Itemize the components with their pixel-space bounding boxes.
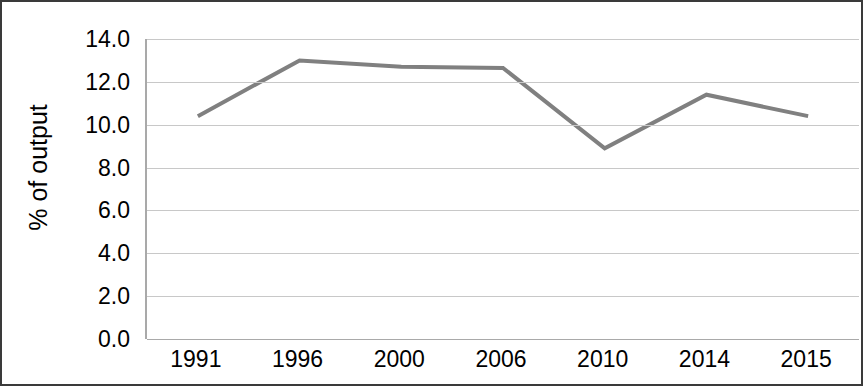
y-tick-label: 2.0 xyxy=(98,283,130,310)
gridline xyxy=(147,253,859,254)
y-tick-label: 4.0 xyxy=(98,240,130,267)
x-tick-label: 2014 xyxy=(679,346,730,373)
gridline xyxy=(147,339,859,340)
series-line-path xyxy=(198,60,808,148)
y-tick-label: 8.0 xyxy=(98,154,130,181)
plot-area xyxy=(145,39,859,339)
gridline xyxy=(147,82,859,83)
y-tick-label: 14.0 xyxy=(85,26,130,53)
gridline xyxy=(147,210,859,211)
y-tick-label: 12.0 xyxy=(85,68,130,95)
x-axis-tick-labels: 1991199620002006201020142015 xyxy=(145,346,857,380)
x-tick-label: 1996 xyxy=(272,346,323,373)
y-axis-title: % of output xyxy=(16,2,60,332)
y-axis-title-text: % of output xyxy=(24,104,53,230)
y-tick-label: 6.0 xyxy=(98,197,130,224)
y-tick-label: 10.0 xyxy=(85,111,130,138)
series-line-chart xyxy=(147,39,859,339)
x-tick-label: 2010 xyxy=(577,346,628,373)
y-tick-label: 0.0 xyxy=(98,326,130,353)
x-tick-label: 1991 xyxy=(170,346,221,373)
gridline xyxy=(147,125,859,126)
gridline xyxy=(147,39,859,40)
x-tick-label: 2015 xyxy=(781,346,832,373)
x-tick-label: 2006 xyxy=(475,346,526,373)
gridline xyxy=(147,296,859,297)
y-axis-tick-labels: 0.02.04.06.08.010.012.014.0 xyxy=(58,39,138,339)
x-tick-label: 2000 xyxy=(374,346,425,373)
gridline xyxy=(147,168,859,169)
chart-frame: % of output 0.02.04.06.08.010.012.014.0 … xyxy=(0,0,863,386)
